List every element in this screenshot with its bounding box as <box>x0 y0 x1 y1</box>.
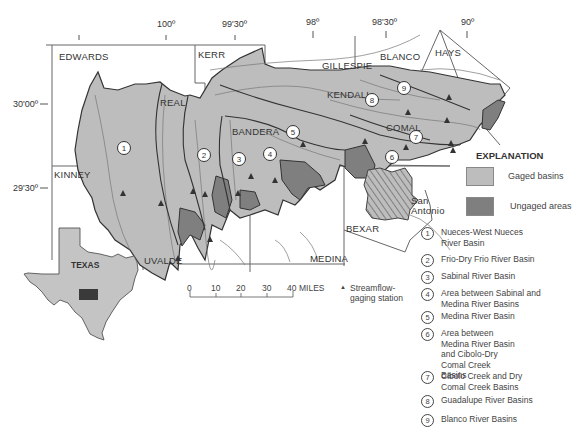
legend-item-label: Medina River Basin <box>441 311 580 322</box>
station-legend-label: Streamflow- gaging station <box>350 283 430 303</box>
county-label-kendall: KENDALL <box>327 89 372 100</box>
stream <box>220 240 245 265</box>
legend-item-label: Blanco River Basins <box>441 414 580 425</box>
legend-item-label: Frio-Dry Frio River Basin <box>441 254 580 265</box>
legend-number-circle: 5 <box>421 311 434 324</box>
scale-label-20: 20 <box>236 283 245 293</box>
gaging-station-marker <box>450 147 456 153</box>
county-label-real: REAL <box>160 97 186 108</box>
basin-marker-4: 4 <box>268 150 273 159</box>
basin-marker-6: 6 <box>390 153 395 162</box>
scale-label-10: 10 <box>211 283 220 293</box>
city-label-antonio: Antonio <box>411 205 445 216</box>
county-label-kerr: KERR <box>198 49 225 60</box>
county-label-hays: HAYS <box>435 47 461 58</box>
legend-item-label: Area between Sabinal and Medina River Ba… <box>441 288 546 309</box>
basin-marker-1: 1 <box>122 144 127 153</box>
san-antonio-area <box>364 168 418 220</box>
legend-number-circle: 8 <box>421 395 434 408</box>
legend-number-circle: 9 <box>421 414 434 427</box>
study-area-inset-marker <box>79 289 98 300</box>
county-label-bexar: BEXAR <box>346 223 379 234</box>
legend-item-label: Guadalupe River Basins <box>441 395 580 406</box>
scale-label-30: 30 <box>262 283 271 293</box>
legend-item-label: Sabinal River Basin <box>441 271 580 282</box>
basin-marker-2: 2 <box>202 151 207 160</box>
legend-number-circle: 1 <box>421 227 434 240</box>
legend-number-circle: 2 <box>421 254 434 267</box>
county-label-edwards: EDWARDS <box>59 51 109 62</box>
scale-label-40: 40 <box>287 283 296 293</box>
explanation-title: EXPLANATION <box>476 150 543 161</box>
stream <box>275 240 290 262</box>
county-label-bandera: BANDERA <box>232 126 280 137</box>
longitude-ticks <box>79 31 467 40</box>
basin-marker-7: 7 <box>414 133 419 142</box>
station-label-line2: gaging station <box>350 293 430 303</box>
lon-label-100: 100º <box>157 19 176 29</box>
station-label-line1: Streamflow- <box>350 283 430 293</box>
lon-label-98: 98º <box>306 17 320 27</box>
lat-label-29-30: 29'30º <box>13 183 39 193</box>
legend-number-circle: 7 <box>421 371 434 384</box>
basin-marker-9: 9 <box>402 84 407 93</box>
gaged-swatch-label: Gaged basins <box>508 171 564 181</box>
county-label-uvalde: UVALDE <box>144 255 183 266</box>
legend-number-circle: 4 <box>421 288 434 301</box>
lat-label-30: 30'00º <box>13 99 39 109</box>
lon-label-90: 90º <box>461 17 475 27</box>
scale-label-0: 0 <box>187 283 192 293</box>
legend-number-circle: 6 <box>421 328 434 341</box>
ungaged-swatch-label: Ungaged areas <box>510 201 572 211</box>
legend-number-circle: 3 <box>421 271 434 284</box>
basin-marker-3: 3 <box>237 155 242 164</box>
texas-inset-outline <box>24 228 138 340</box>
lon-label-99-30: 99'30º <box>222 19 248 29</box>
county-label-blanco: BLANCO <box>380 51 420 62</box>
basin-marker-8: 8 <box>370 96 375 105</box>
gaged-swatch <box>466 167 494 186</box>
ungaged-swatch <box>466 197 494 216</box>
county-label-gillespie: GILLESPIE <box>322 60 372 71</box>
county-label-kinney: KINNEY <box>54 169 91 180</box>
basin-marker-5: 5 <box>291 128 296 137</box>
station-symbol-icon: ▲ <box>340 284 346 290</box>
scale-unit: MILES <box>299 283 325 293</box>
legend-item-label: Cibolo Creek and Dry Comal Creek Basins <box>441 371 526 392</box>
lon-label-98-30: 98'30º <box>372 17 398 27</box>
texas-label: TEXAS <box>71 260 100 270</box>
legend-item-label: Nueces-West Nueces River Basin <box>441 227 541 248</box>
county-label-medina: MEDINA <box>310 253 349 264</box>
